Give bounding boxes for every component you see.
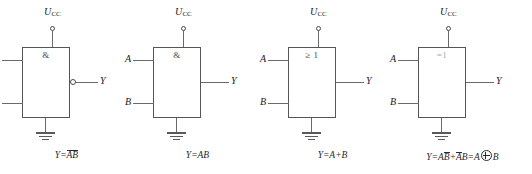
- output-label: Y: [366, 75, 372, 86]
- output-wire: [76, 82, 98, 83]
- formula-tail: B=A: [462, 152, 480, 162]
- ground-icon: [432, 132, 451, 134]
- nand-gate: UCC & A B Y Y=AB: [0, 0, 133, 174]
- supply-label: UCC: [44, 6, 61, 18]
- gate-symbol-or: ≥ 1: [288, 50, 336, 60]
- input-wire-a: [398, 60, 419, 61]
- supply-wire: [52, 31, 53, 48]
- xor-gate: UCC =1 A B Y Y=AB+AB=AB: [396, 0, 529, 174]
- gate-symbol-and: &: [22, 50, 70, 60]
- output-label: Y: [496, 75, 502, 86]
- input-wire-a: [133, 60, 154, 61]
- ground-icon: [36, 132, 55, 134]
- overbar-term: AB: [67, 150, 79, 161]
- or-gate: UCC ≥ 1 A B Y Y=A+B: [266, 0, 399, 174]
- formula-term: A+B: [329, 150, 347, 160]
- formula-lead: Y=A: [426, 152, 444, 162]
- ground-wire: [441, 118, 442, 132]
- supply-wire: [183, 31, 184, 48]
- ground-icon-bar3: [308, 139, 315, 140]
- input-label-a: A: [256, 53, 266, 64]
- input-wire-b: [268, 103, 289, 104]
- formula-end: B: [493, 152, 499, 162]
- input-wire-a: [2, 60, 23, 61]
- formula-and: Y=AB: [131, 150, 264, 160]
- output-wire: [466, 82, 494, 83]
- input-label-a: A: [386, 53, 396, 64]
- gate-symbol-xor: =1: [418, 50, 466, 60]
- input-label-b: B: [121, 96, 131, 107]
- ground-icon-bar3: [438, 139, 445, 140]
- xor-operator-icon: [481, 150, 492, 161]
- ground-icon-bar2: [39, 136, 52, 137]
- ground-icon: [302, 132, 321, 134]
- input-wire-a: [268, 60, 289, 61]
- output-label: Y: [100, 75, 106, 86]
- ground-icon-bar3: [173, 139, 180, 140]
- gate-symbol-and: &: [153, 50, 201, 60]
- input-wire-b: [2, 103, 23, 104]
- input-label-a: A: [121, 53, 131, 64]
- input-wire-b: [133, 103, 154, 104]
- output-label: Y: [231, 75, 237, 86]
- formula-nand: Y=AB: [0, 150, 133, 161]
- input-label-b: B: [256, 96, 266, 107]
- ground-wire: [45, 118, 46, 132]
- ground-wire: [176, 118, 177, 132]
- ground-icon-bar2: [305, 136, 318, 137]
- overbar-term-1: B: [444, 152, 450, 163]
- output-wire: [336, 82, 364, 83]
- formula-xor: Y=AB+AB=AB: [374, 150, 532, 163]
- supply-wire: [448, 31, 449, 48]
- logic-gate-diagram: UCC & A B Y Y=AB UCC & A B Y Y=: [0, 0, 532, 174]
- input-wire-b: [398, 103, 419, 104]
- supply-label: UCC: [310, 6, 327, 18]
- supply-label: UCC: [175, 6, 192, 18]
- ground-wire: [311, 118, 312, 132]
- supply-label: UCC: [440, 6, 457, 18]
- input-label-b: B: [386, 96, 396, 107]
- ground-icon-bar2: [170, 136, 183, 137]
- supply-wire: [318, 31, 319, 48]
- ground-icon-bar2: [435, 136, 448, 137]
- ground-icon-bar3: [42, 139, 49, 140]
- and-gate: UCC & A B Y Y=AB: [131, 0, 264, 174]
- formula-term: AB: [198, 150, 210, 160]
- output-wire: [201, 82, 229, 83]
- ground-icon: [167, 132, 186, 134]
